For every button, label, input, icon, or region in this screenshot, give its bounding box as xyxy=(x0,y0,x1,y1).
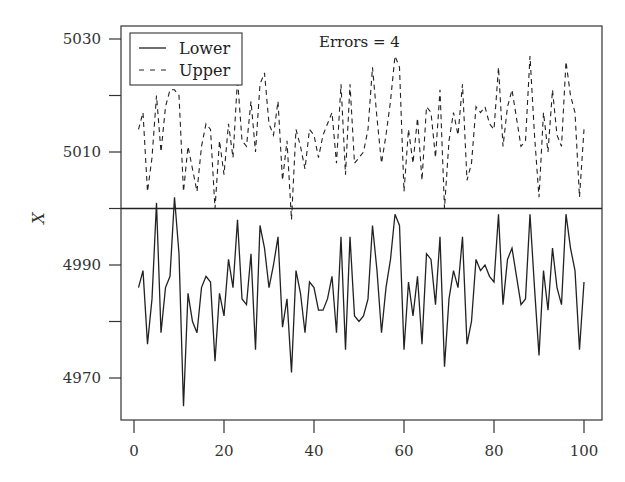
x-tick-label: 100 xyxy=(570,442,599,460)
y-axis: 4970499050105030 xyxy=(63,30,121,387)
y-tick-label: 5010 xyxy=(63,143,101,161)
x-tick-label: 60 xyxy=(394,442,413,460)
x-tick-label: 40 xyxy=(304,442,323,460)
x-tick-label: 0 xyxy=(129,442,139,460)
legend-lower-label: Lower xyxy=(179,39,230,58)
x-axis: 020406080100 xyxy=(129,420,598,460)
x-tick-label: 80 xyxy=(484,442,503,460)
x-tick-label: 20 xyxy=(214,442,233,460)
legend: Lower Upper xyxy=(130,33,242,85)
errors-annotation: Errors = 4 xyxy=(319,33,400,51)
legend-upper-label: Upper xyxy=(179,61,230,80)
y-tick-label: 5030 xyxy=(63,30,101,48)
lower-series-line xyxy=(139,197,585,406)
y-tick-label: 4990 xyxy=(63,256,101,274)
y-axis-title: X xyxy=(29,212,48,226)
line-chart: 4970499050105030 020406080100 X Lower Up… xyxy=(0,0,625,482)
y-tick-label: 4970 xyxy=(63,369,101,387)
